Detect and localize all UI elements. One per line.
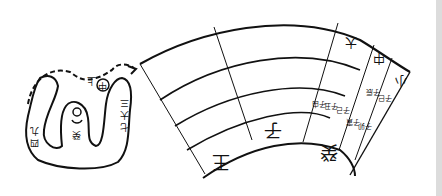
small-cell-6: 子辰: [366, 88, 380, 96]
small-cell-7: 子巳: [378, 94, 392, 102]
top-char-da: 大: [345, 35, 357, 49]
small-cell-1: 子由: [312, 100, 326, 109]
circle-label: 中: [98, 81, 107, 92]
diagram-canvas: 中 上 癸 九 四 三 大 七 王 子 癸 大 中 小 子由 子丑 子己 子寅: [0, 0, 442, 196]
fan-diagram: [140, 23, 410, 178]
page-edge: [436, 0, 442, 196]
band-char-zi: 子: [264, 120, 282, 141]
left-label-2: 四: [30, 138, 39, 148]
left-label-1: 九: [30, 126, 39, 136]
right-label-2: 大: [120, 110, 129, 121]
right-label-3: 七: [120, 122, 129, 132]
small-cell-4: 子寅: [346, 118, 360, 127]
top-label: 上: [87, 76, 96, 86]
band-char-gui: 癸: [320, 142, 338, 163]
small-cell-5: 子卯: [358, 122, 372, 131]
center-label: 癸: [72, 130, 81, 141]
small-cell-2: 子丑: [324, 102, 338, 110]
right-label-1: 三: [120, 98, 129, 108]
top-char-xiao: 小: [395, 73, 407, 87]
band-char-wang: 王: [212, 152, 230, 173]
small-cell-3: 子己: [336, 106, 350, 114]
left-cave-diagram: [26, 65, 136, 169]
top-char-zhong: 中: [373, 51, 385, 66]
